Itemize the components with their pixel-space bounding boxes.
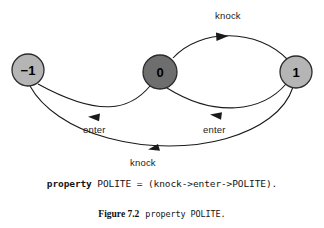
figure-number: Figure 7.2 [98,209,139,219]
edge-knock-bottom [30,86,293,151]
figure-caption: Figure 7.2property POLITE. [0,203,324,221]
edge-knock-top [173,33,288,61]
edge-enter-left-path [38,84,150,107]
node-zero-label: 0 [156,65,163,80]
property-definition-line: property POLITE = (knock->enter->POLITE)… [0,178,324,189]
edge-label-enter-right: enter [203,124,226,135]
edge-enter-left-arrowhead [88,114,100,122]
edge-knock-top-path [173,36,288,60]
figure-page: −1 0 1 knock enter enter knock property … [0,0,324,228]
edge-knock-top-arrowhead [216,33,229,42]
node-minus-one[interactable]: −1 [12,54,44,86]
edge-enter-right-path [167,84,286,108]
code-rest: POLITE = (knock->enter->POLITE). [92,178,277,189]
state-machine-diagram: −1 0 1 [0,0,324,180]
edge-enter-right-arrowhead [210,112,222,120]
figure-caption-text: property POLITE. [139,209,225,219]
edge-enter-left [38,84,150,121]
node-minus-one-label: −1 [21,63,36,78]
edge-enter-right [167,84,286,120]
node-zero[interactable]: 0 [143,55,177,89]
node-one[interactable]: 1 [280,56,312,88]
edge-label-knock-bottom: knock [130,157,156,168]
code-keyword: property [47,178,92,189]
edge-label-enter-left: enter [83,124,106,135]
node-one-label: 1 [292,65,299,80]
edge-knock-bottom-path [30,86,293,146]
edge-label-knock-top: knock [215,10,241,21]
